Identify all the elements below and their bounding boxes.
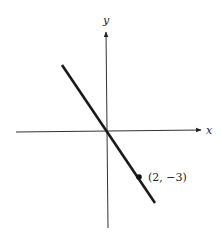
point-marker (136, 174, 142, 180)
y-axis-label: y (102, 14, 110, 27)
plotted-line (62, 65, 155, 203)
x-axis-label: x (206, 124, 213, 137)
point-label: (2, −3) (148, 171, 187, 184)
coordinate-plot: x y (2, −3) (0, 0, 221, 236)
